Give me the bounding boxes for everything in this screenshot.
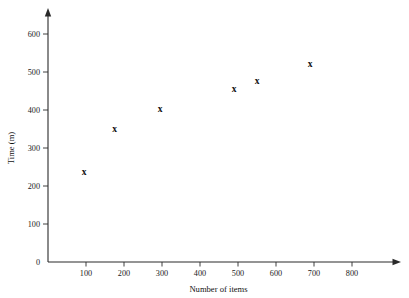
x-axis-arrow-icon bbox=[393, 259, 402, 265]
axes-group bbox=[45, 8, 401, 265]
data-point-marker: x bbox=[158, 104, 163, 114]
scatter-plot-figure: 0100200300400500600 10020030040050060070… bbox=[0, 0, 409, 298]
data-point-marker: x bbox=[232, 84, 237, 94]
y-axis-tick-label: 200 bbox=[28, 182, 40, 191]
data-point-marker: x bbox=[112, 124, 117, 134]
x-axis-tick-label: 400 bbox=[194, 269, 206, 278]
x-axis-tick-label: 200 bbox=[118, 269, 130, 278]
y-axis-tick-label: 600 bbox=[28, 30, 40, 39]
data-point-marker: x bbox=[308, 59, 313, 69]
x-axis-tick-label: 100 bbox=[80, 269, 92, 278]
y-axis-tick-label: 100 bbox=[28, 220, 40, 229]
y-axis-arrow-icon bbox=[45, 8, 51, 17]
y-axis-ticks: 0100200300400500600 bbox=[28, 30, 48, 267]
x-axis-tick-label: 700 bbox=[308, 269, 320, 278]
y-axis-tick-label: 400 bbox=[28, 106, 40, 115]
data-point-marker: x bbox=[82, 167, 87, 177]
x-axis-ticks: 100200300400500600700800 bbox=[80, 262, 358, 278]
data-point-series: xxxxxx bbox=[82, 59, 313, 176]
y-axis-title: Time (m) bbox=[6, 132, 16, 165]
x-axis-tick-label: 500 bbox=[232, 269, 244, 278]
x-axis-tick-label: 800 bbox=[346, 269, 358, 278]
data-point-marker: x bbox=[255, 76, 260, 86]
x-axis-title: Number of items bbox=[189, 284, 248, 294]
x-axis-tick-label: 600 bbox=[270, 269, 282, 278]
y-axis-tick-label: 0 bbox=[36, 258, 40, 267]
x-axis-tick-label: 300 bbox=[156, 269, 168, 278]
y-axis-tick-label: 500 bbox=[28, 68, 40, 77]
chart-canvas: 0100200300400500600 10020030040050060070… bbox=[0, 0, 409, 298]
y-axis-tick-label: 300 bbox=[28, 144, 40, 153]
